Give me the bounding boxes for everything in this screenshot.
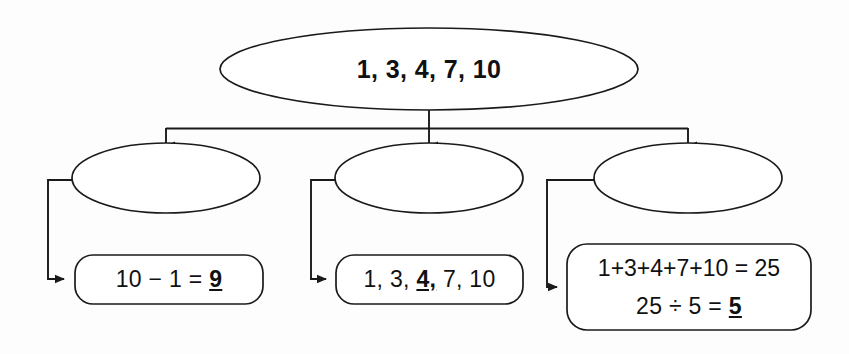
elbow-connector-middle (311, 180, 335, 279)
tree-diagram: 1, 3, 4, 7, 10 10 − 1 = 9 1, 3, 4, 7, 10… (0, 0, 849, 354)
branch-right-box-shape (567, 244, 811, 330)
branch-left-box-shape (75, 255, 263, 304)
branch-right-ellipse-shape (594, 143, 782, 213)
branch-middle-box-shape (336, 255, 523, 304)
branch-middle-ellipse-shape (335, 143, 523, 213)
diagram-canvas (0, 0, 849, 354)
branch-left-ellipse-shape (72, 143, 260, 213)
elbow-connector-left (48, 180, 72, 279)
root-ellipse-shape (220, 28, 638, 110)
